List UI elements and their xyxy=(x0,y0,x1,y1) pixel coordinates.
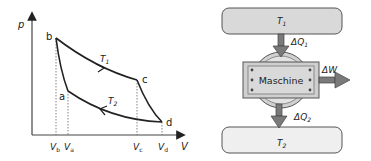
tick-vc: Vc xyxy=(133,142,142,153)
adiabat-expansion-curve xyxy=(137,80,162,122)
engine-diagram: T1 T2 ΔQ1 Maschine ΔW Δ xyxy=(222,8,350,153)
point-d-label: d xyxy=(166,117,172,128)
pv-diagram: p V T1 T2 b a c d xyxy=(17,16,189,153)
isotherm-hot-curve xyxy=(56,38,137,80)
figure: p V T1 T2 b a c d xyxy=(0,0,371,161)
x-axis-label: V xyxy=(181,141,189,152)
point-b-label: b xyxy=(46,31,52,42)
machine-label: Maschine xyxy=(259,75,304,86)
tick-vd: Vd xyxy=(158,142,168,153)
y-axis-label: p xyxy=(17,19,24,30)
isotherm-hot-label: T1 xyxy=(100,54,109,65)
isotherm-cold-label: T2 xyxy=(108,96,118,107)
tick-vb: Vb xyxy=(50,142,60,153)
point-a-label: a xyxy=(59,91,65,102)
heat-in-label: ΔQ1 xyxy=(290,37,308,48)
point-c-label: c xyxy=(142,74,148,85)
work-out-label: ΔW xyxy=(321,65,338,75)
tick-va: Va xyxy=(64,142,74,153)
heat-out-label: ΔQ2 xyxy=(293,112,311,123)
